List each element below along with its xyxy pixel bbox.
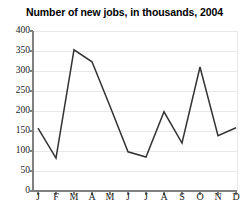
x-axis-tick-label: J	[118, 192, 138, 202]
x-axis-tick-label: A	[82, 192, 102, 202]
x-axis-tick-label: F	[46, 192, 66, 202]
series-line-new-jobs	[38, 50, 236, 158]
x-axis-tick-label: J	[28, 192, 48, 202]
x-axis-tick-label: J	[136, 192, 156, 202]
x-axis-tick-label: D	[226, 192, 246, 202]
x-axis-tick-label: M	[64, 192, 84, 202]
y-axis-tick-label: 400	[4, 26, 30, 36]
x-axis-tick-label: S	[172, 192, 192, 202]
y-axis-tick-label: 300	[4, 66, 30, 76]
y-axis-tick-label: 200	[4, 106, 30, 116]
chart-figure: Number of new jobs, in thousands, 2004 0…	[0, 0, 249, 223]
y-axis-tick-labels: 050100150200250300350400	[0, 0, 30, 223]
y-axis-tick-label: 250	[4, 86, 30, 96]
x-axis-tick-label: N	[208, 192, 228, 202]
x-axis-tick-label: A	[154, 192, 174, 202]
plot-area: 050100150200250300350400 JFMAMJJASOND	[0, 0, 249, 223]
x-axis-tick-label: M	[100, 192, 120, 202]
x-axis-tick-label: O	[190, 192, 210, 202]
line-chart-svg	[0, 0, 249, 223]
y-axis-tick-label: 350	[4, 46, 30, 56]
y-axis-tick-label: 150	[4, 126, 30, 136]
data-series-line	[38, 50, 236, 158]
x-axis-tick-labels: JFMAMJJASOND	[0, 192, 249, 212]
y-axis-tick-label: 50	[4, 166, 30, 176]
y-axis-tick-label: 100	[4, 146, 30, 156]
